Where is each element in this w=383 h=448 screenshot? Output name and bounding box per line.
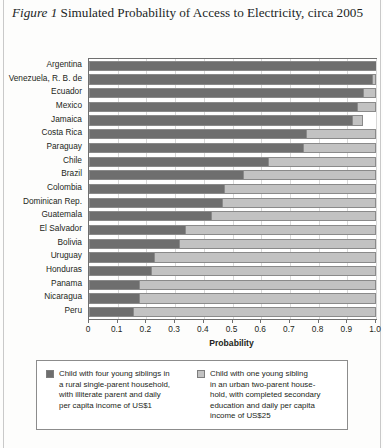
- x-axis-tick-label: 0.9: [331, 324, 361, 334]
- page-edge-right: [380, 0, 381, 448]
- x-axis-tick: [174, 319, 175, 323]
- bar-track: [89, 129, 376, 139]
- bar-row: [89, 129, 376, 139]
- bar-track: [89, 184, 376, 194]
- category-label: Costa Rica: [0, 128, 82, 137]
- category-label: El Salvador: [0, 224, 82, 233]
- bar-segment-dark: [89, 88, 363, 98]
- bar-segment-light: [185, 225, 376, 235]
- bar-segment-dark: [89, 184, 224, 194]
- bar-row: [89, 115, 376, 125]
- bar-track: [89, 211, 376, 221]
- bar-track: [89, 102, 376, 112]
- x-axis-tick: [289, 319, 290, 323]
- bar-row: [89, 307, 376, 317]
- bar-segment-dark: [89, 307, 133, 317]
- category-label: Nicaragua: [0, 292, 82, 301]
- category-label: Colombia: [0, 183, 82, 192]
- bar-row: [89, 225, 376, 235]
- bar-track: [89, 293, 376, 303]
- plot-inner: [89, 59, 376, 319]
- bar-segment-light: [306, 129, 376, 139]
- category-label: Jamaica: [0, 115, 82, 124]
- bar-segment-light: [352, 115, 363, 125]
- bar-track: [89, 280, 376, 290]
- bar-segment-dark: [89, 157, 268, 167]
- bar-segment-light: [303, 143, 376, 153]
- bar-segment-dark: [89, 143, 303, 153]
- x-axis-title: Probability: [88, 338, 375, 348]
- bar-track: [89, 170, 376, 180]
- bar-segment-light: [222, 198, 376, 208]
- legend-label-dark: Child with four young siblings ina rural…: [59, 369, 170, 411]
- bar-segment-dark: [89, 293, 139, 303]
- x-axis-tick: [145, 319, 146, 323]
- bar-track: [89, 239, 376, 249]
- x-axis-tick: [88, 319, 89, 323]
- legend-swatch-icon-dark: [46, 370, 54, 378]
- bar-track: [89, 61, 376, 71]
- bar-row: [89, 157, 376, 167]
- category-axis-labels: ArgentinaVenezuela, R. B. deEcuadorMexic…: [0, 58, 85, 318]
- category-label: Paraguay: [0, 142, 82, 151]
- bar-track: [89, 115, 376, 125]
- x-axis-tick-label: 0: [73, 324, 103, 334]
- bar-segment-dark: [89, 225, 185, 235]
- bar-row: [89, 211, 376, 221]
- figure-label: Figure 1: [12, 5, 57, 20]
- bar-row: [89, 184, 376, 194]
- x-axis-tick: [375, 319, 376, 323]
- bar-row: [89, 143, 376, 153]
- bar-segment-dark: [89, 102, 357, 112]
- page-title: Figure 1 Simulated Probability of Access…: [12, 5, 364, 21]
- bar-row: [89, 293, 376, 303]
- legend-label-light: Child with one young siblingin an urban …: [210, 369, 321, 422]
- bar-segment-light: [363, 88, 376, 98]
- bar-segment-dark: [89, 239, 179, 249]
- bar-segment-light: [154, 252, 376, 262]
- bar-segment-dark: [89, 129, 306, 139]
- legend-swatch-icon-light: [197, 370, 205, 378]
- category-label: Bolivia: [0, 238, 82, 247]
- bar-track: [89, 157, 376, 167]
- bar-segment-dark: [89, 115, 352, 125]
- bar-segment-light: [211, 211, 376, 221]
- x-axis-tick-label: 0.5: [217, 324, 247, 334]
- bar-track: [89, 143, 376, 153]
- category-label: Panama: [0, 279, 82, 288]
- category-label: Brazil: [0, 169, 82, 178]
- bar-row: [89, 252, 376, 262]
- bar-row: [89, 102, 376, 112]
- bar-segment-light: [224, 184, 376, 194]
- bar-segment-light: [179, 239, 376, 249]
- bar-segment-light: [139, 280, 376, 290]
- x-axis-tick-label: 0.3: [159, 324, 189, 334]
- bar-segment-light: [372, 74, 376, 84]
- figure-page: Figure 1 Simulated Probability of Access…: [0, 0, 383, 448]
- bar-segment-dark: [89, 266, 151, 276]
- chart-legend: Child with four young siblings ina rural…: [36, 360, 348, 430]
- category-label: Guatemala: [0, 210, 82, 219]
- x-axis-tick-label: 1.0: [360, 324, 383, 334]
- x-axis-tick: [318, 319, 319, 323]
- bar-segment-dark: [89, 198, 222, 208]
- x-axis-tick: [260, 319, 261, 323]
- gridline: [376, 59, 377, 319]
- legend-item-light-series: Child with one young siblingin an urban …: [197, 369, 342, 422]
- bar-segment-dark: [89, 74, 372, 84]
- category-label: Venezuela, R. B. de: [0, 74, 82, 83]
- bar-segment-light: [268, 157, 376, 167]
- x-axis-tick: [346, 319, 347, 323]
- bar-row: [89, 61, 376, 71]
- x-axis-tick-label: 0.2: [130, 324, 160, 334]
- bar-segment-dark: [89, 170, 243, 180]
- bar-row: [89, 280, 376, 290]
- bar-row: [89, 266, 376, 276]
- bar-segment-light: [357, 102, 376, 112]
- category-label: Uruguay: [0, 251, 82, 260]
- bar-track: [89, 198, 376, 208]
- x-axis-tick: [203, 319, 204, 323]
- bar-track: [89, 252, 376, 262]
- x-axis-tick-label: 0.6: [245, 324, 275, 334]
- bar-segment-dark: [89, 252, 154, 262]
